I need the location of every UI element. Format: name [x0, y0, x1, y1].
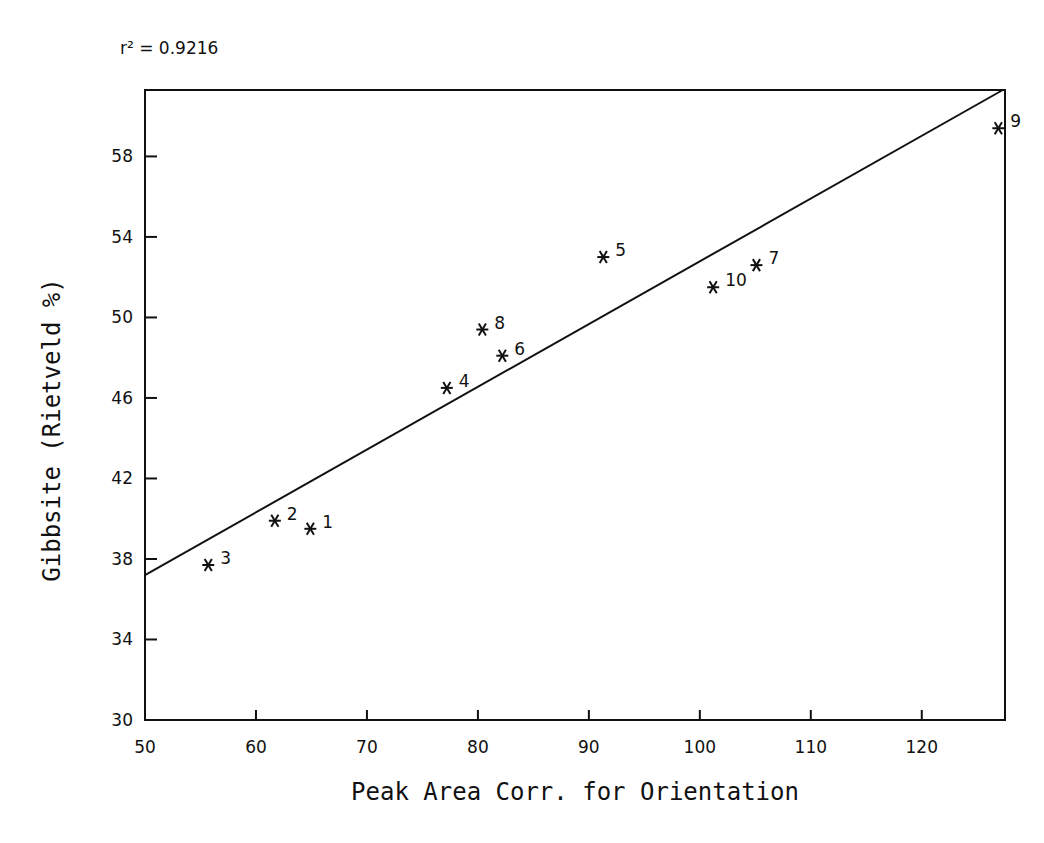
y-tick-label: 34: [111, 629, 133, 649]
x-tick-label: 110: [795, 737, 827, 757]
data-point: 1: [304, 512, 333, 535]
data-point-label: 6: [514, 339, 525, 359]
data-point: 6: [496, 339, 525, 362]
data-point: 9: [992, 111, 1021, 134]
x-tick-label: 90: [578, 737, 600, 757]
y-tick-label: 30: [111, 710, 133, 730]
data-point: 7: [750, 248, 779, 271]
data-point-label: 3: [220, 548, 231, 568]
x-axis-title: Peak Area Corr. for Orientation: [351, 778, 799, 806]
data-point-label: 8: [494, 313, 505, 333]
data-point: 2: [269, 504, 298, 527]
x-tick-label: 50: [134, 737, 156, 757]
data-point-label: 4: [459, 371, 470, 391]
data-point: 5: [597, 240, 626, 263]
x-tick-label: 70: [356, 737, 378, 757]
y-axis-title: Gibbsite (Rietveld %): [38, 278, 66, 581]
data-point-label: 5: [615, 240, 626, 260]
data-point: 4: [441, 371, 470, 394]
y-tick-label: 38: [111, 549, 133, 569]
y-tick-label: 46: [111, 388, 133, 408]
data-point-label: 1: [322, 512, 333, 532]
regression-line: [145, 90, 1003, 575]
plot-frame: [145, 90, 1005, 720]
data-point: 3: [202, 548, 231, 571]
x-axis-ticks: 5060708090100110120: [134, 710, 938, 757]
data-point: 8: [476, 313, 505, 336]
x-tick-label: 120: [906, 737, 938, 757]
y-tick-label: 58: [111, 146, 133, 166]
x-tick-label: 100: [684, 737, 716, 757]
y-tick-label: 50: [111, 307, 133, 327]
data-point-label: 2: [287, 504, 298, 524]
scatter-chart: r² = 0.9216 3034384246505458 50607080901…: [0, 0, 1044, 843]
r-squared-annotation: r² = 0.9216: [120, 38, 218, 58]
data-point-label: 10: [725, 270, 747, 290]
x-tick-label: 60: [245, 737, 267, 757]
regression-line-path: [145, 90, 1003, 575]
x-tick-label: 80: [467, 737, 489, 757]
y-tick-label: 42: [111, 468, 133, 488]
data-points: 12345678910: [202, 111, 1021, 571]
data-point-label: 7: [768, 248, 779, 268]
y-axis-ticks: 3034384246505458: [111, 146, 157, 730]
plot-border: [145, 90, 1005, 720]
data-point: 10: [707, 270, 747, 293]
y-tick-label: 54: [111, 227, 133, 247]
data-point-label: 9: [1010, 111, 1021, 131]
